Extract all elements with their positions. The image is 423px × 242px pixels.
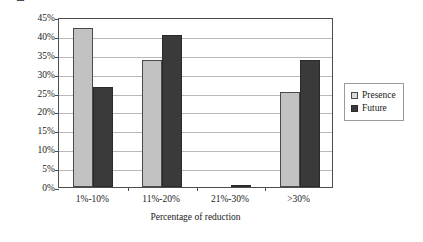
x-axis-tick-mark [197, 187, 198, 191]
x-axis-tick-labels: 1%-10%11%-20%21%-30%>30% [58, 193, 333, 207]
bar-presence-1 [142, 60, 162, 187]
y-axis-tick-mark [55, 189, 59, 190]
x-axis-title: Percentage of reduction [58, 212, 333, 222]
bar-group [128, 19, 197, 187]
bar-chart: Percentage of participants 0%5%10%15%20%… [0, 0, 423, 242]
y-axis-tick-label: 15% [38, 127, 55, 137]
y-axis-tick-labels: 0%5%10%15%20%25%30%35%40%45% [30, 18, 57, 188]
y-axis-title-label: Percentage of participants [12, 0, 30, 36]
y-axis-tick-label: 25% [38, 90, 55, 100]
legend-label: Presence [362, 90, 396, 101]
bar-future-0 [93, 87, 113, 187]
x-axis-tick-label: >30% [264, 193, 333, 205]
legend-item-presence[interactable]: Presence [351, 89, 396, 102]
bar-group [265, 19, 334, 187]
x-axis-tick-label: 1%-10% [58, 193, 127, 205]
chart-legend: PresenceFuture [344, 83, 404, 121]
y-axis-tick-label: 0% [42, 184, 55, 194]
x-axis-tick-mark [128, 187, 129, 191]
bar-group [197, 19, 266, 187]
bar-future-3 [300, 60, 320, 187]
legend-item-future[interactable]: Future [351, 102, 396, 115]
x-axis-tick-mark [265, 187, 266, 191]
x-axis-tick-label: 21%-30% [196, 193, 265, 205]
x-axis-tick-label: 11%-20% [127, 193, 196, 205]
bar-future-1 [162, 35, 182, 187]
y-axis-tick-label: 45% [38, 14, 55, 24]
legend-swatch-icon [351, 92, 358, 99]
bar-future-2 [231, 185, 251, 187]
y-axis-title: Percentage of participants [12, 0, 30, 36]
y-axis-tick-label: 40% [38, 33, 55, 43]
y-axis-tick-label: 20% [38, 108, 55, 118]
bar-presence-3 [280, 92, 300, 187]
legend-swatch-icon [351, 105, 358, 112]
legend-label: Future [362, 103, 387, 114]
bar-group [59, 19, 128, 187]
y-axis-tick-label: 5% [42, 165, 55, 175]
y-axis-tick-label: 35% [38, 52, 55, 62]
y-axis-tick-label: 30% [38, 71, 55, 81]
bar-presence-0 [73, 28, 93, 187]
plot-area [58, 18, 333, 188]
y-axis-tick-label: 10% [38, 146, 55, 156]
